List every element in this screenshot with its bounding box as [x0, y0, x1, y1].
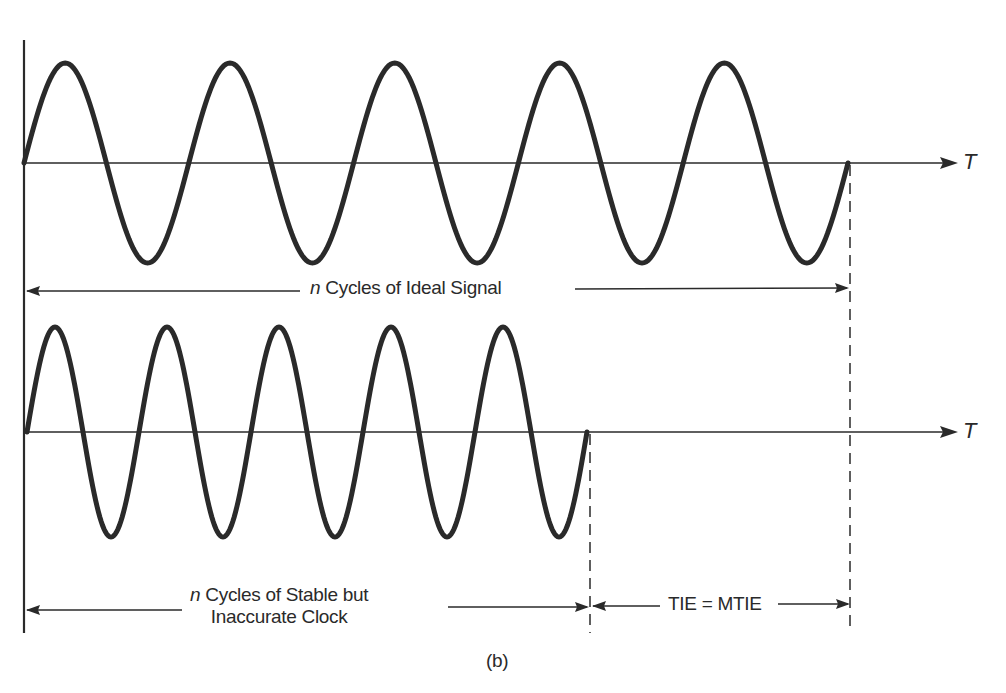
clock-span-left-arrow-icon [26, 605, 40, 615]
ideal-span-right-arrow-icon [835, 283, 849, 293]
caption-text: (b) [486, 650, 508, 671]
bottom-axis-t-label: T [963, 418, 976, 443]
inaccurate-clock-label: n Cycles of Stable but Inaccurate Clock [186, 584, 372, 628]
tie-mtie-text: TIE = MTIE [668, 593, 762, 614]
top-axis-t-label: T [963, 149, 976, 174]
bottom-axis-label: T [963, 418, 976, 444]
clock-span-right-arrow-icon [575, 602, 589, 612]
timing-error-diagram [0, 0, 1006, 693]
ideal-signal-label: n Cycles of Ideal Signal [306, 277, 505, 299]
clock-n-label: n [190, 584, 200, 605]
clock-label-line1: n Cycles of Stable but [190, 584, 368, 606]
clock-label-line1-text: Cycles of Stable but [200, 584, 368, 605]
tie-span-left-arrow-icon [592, 601, 606, 611]
clock-label-line2: Inaccurate Clock [190, 606, 368, 628]
ideal-n-label: n [310, 277, 320, 298]
tie-mtie-label: TIE = MTIE [664, 593, 766, 615]
top-axis-label: T [963, 149, 976, 175]
ideal-span-line-right [575, 288, 847, 289]
ideal-label-text: Cycles of Ideal Signal [320, 277, 501, 298]
ideal-span-left-arrow-icon [26, 286, 40, 296]
figure-caption: (b) [486, 650, 508, 672]
tie-span-right-arrow-icon [836, 599, 850, 609]
